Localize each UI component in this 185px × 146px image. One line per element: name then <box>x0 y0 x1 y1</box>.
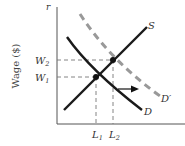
supply-curve <box>64 27 147 110</box>
equilibrium-point-1 <box>93 74 99 80</box>
supply-label: S <box>148 20 155 31</box>
demand-label: D <box>143 106 152 117</box>
l2-label: L2 <box>108 129 120 142</box>
equilibrium-point-2 <box>110 57 116 63</box>
shift-right-arrow-icon <box>118 86 139 93</box>
y-axis-top-label: r <box>46 2 51 12</box>
w1-label: W1 <box>35 72 49 85</box>
new-demand-label: D′ <box>160 93 172 104</box>
y-axis-title: Wage ($) <box>10 43 21 88</box>
labor-market-diagram: r Wage ($) W2 W1 L1 L2 S D D′ <box>0 0 185 146</box>
l1-label: L1 <box>91 129 103 142</box>
w2-label: W2 <box>35 55 49 68</box>
